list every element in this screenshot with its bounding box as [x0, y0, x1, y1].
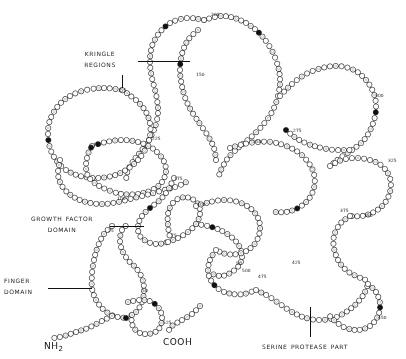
- annotation-growth-factor-domain-line2: domain: [14, 224, 110, 235]
- residue-number: 225: [152, 136, 161, 141]
- annotation-finger-domain-line1: Finger: [4, 275, 30, 285]
- residue-number: 400: [197, 202, 206, 207]
- residue-number: 525: [163, 320, 172, 325]
- protein-domain-figure: 1252001501501001752252502753003253503754…: [0, 0, 406, 359]
- residue-number: 350: [364, 213, 373, 218]
- residue-number: 325: [388, 158, 397, 163]
- residue-number: 75: [171, 233, 177, 238]
- annotation-kringle-regions-line1: Kringle: [85, 48, 115, 58]
- annotation-kringle-regions-line2: regions: [62, 59, 138, 70]
- residue-number: 450: [378, 315, 387, 320]
- n-terminus-text: NH: [44, 341, 59, 351]
- leader-line-growth-factor-domain: [110, 226, 144, 227]
- amino-acid-chain-canvas: [0, 0, 406, 359]
- residue-number: 50: [236, 261, 242, 266]
- residue-number: 425: [292, 260, 301, 265]
- residue-number: 175: [174, 176, 183, 181]
- residue-number: 475: [258, 274, 267, 279]
- annotation-serine-protease-part-line1: Serine protease part: [262, 341, 348, 351]
- residue-number: 200: [211, 12, 220, 17]
- residue-number: 250: [253, 139, 262, 144]
- annotation-kringle-regions: Kringle regions: [62, 48, 138, 71]
- residue-number: 100: [117, 196, 126, 201]
- residue-number: 275: [293, 128, 302, 133]
- c-terminus-text: COOH: [163, 337, 192, 347]
- annotation-growth-factor-domain: Growth factor domain: [14, 213, 110, 236]
- leader-line-finger-domain: [48, 288, 92, 289]
- tick-line-kringle-regions: [122, 75, 123, 88]
- n-terminus-label: NH2: [44, 341, 63, 354]
- residue-number: 300: [375, 93, 384, 98]
- annotation-finger-domain: Finger domain: [4, 275, 50, 298]
- tick-line-serine-protease-part: [310, 307, 311, 337]
- residue-number: 375: [340, 208, 349, 213]
- c-terminus-label: COOH: [163, 337, 192, 348]
- n-terminus-subscript: 2: [59, 345, 64, 353]
- annotation-growth-factor-domain-line1: Growth factor: [31, 213, 93, 223]
- residue-number: 125: [118, 88, 127, 93]
- annotation-finger-domain-line2: domain: [4, 286, 50, 297]
- residue-number: 150: [93, 142, 102, 147]
- residue-number: 150: [196, 72, 205, 77]
- residue-number: 50: [142, 288, 148, 293]
- leader-line-kringle-regions: [138, 61, 190, 62]
- residue-number: 500: [242, 268, 251, 273]
- annotation-serine-protease-part: Serine protease part: [262, 341, 348, 352]
